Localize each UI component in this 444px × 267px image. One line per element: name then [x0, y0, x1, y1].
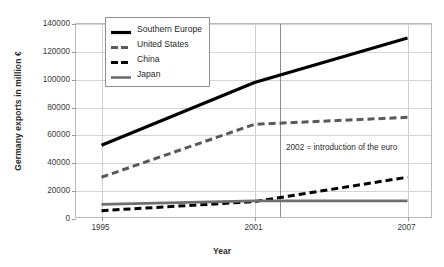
series-line — [102, 201, 408, 204]
legend-label: Southern Europe — [137, 24, 202, 35]
line-chart: Germany exports in million € 02000040000… — [0, 0, 444, 267]
y-tick-label: 80000 — [24, 102, 70, 111]
legend-label: China — [137, 54, 159, 65]
legend-swatch-icon — [111, 24, 131, 35]
legend-item[interactable]: United States — [111, 37, 202, 52]
y-tick-label: 40000 — [24, 158, 70, 167]
y-tick-label: 120000 — [24, 46, 70, 55]
legend-label: Japan — [137, 69, 160, 80]
y-tick-label: 100000 — [24, 74, 70, 83]
y-tick-label: 140000 — [24, 19, 70, 28]
legend-swatch-icon — [111, 39, 131, 50]
x-tick-label: 1995 — [71, 223, 131, 232]
x-axis-title: Year — [0, 246, 444, 256]
legend-item[interactable]: Southern Europe — [111, 22, 202, 37]
y-tick-mark — [72, 219, 76, 220]
y-axis-tick-labels: 020000400006000080000100000120000140000 — [18, 0, 70, 267]
x-tick-label: 2001 — [224, 223, 284, 232]
legend: Southern EuropeUnited StatesChinaJapan — [105, 17, 210, 87]
y-tick-label: 20000 — [24, 186, 70, 195]
series-line — [102, 177, 408, 210]
x-tick-label: 2007 — [377, 223, 437, 232]
legend-item[interactable]: Japan — [111, 67, 202, 82]
y-tick-label: 60000 — [24, 130, 70, 139]
legend-item[interactable]: China — [111, 52, 202, 67]
y-tick-label: 0 — [24, 214, 70, 223]
legend-label: United States — [137, 39, 189, 50]
legend-swatch-icon — [111, 54, 131, 65]
legend-swatch-icon — [111, 69, 131, 80]
